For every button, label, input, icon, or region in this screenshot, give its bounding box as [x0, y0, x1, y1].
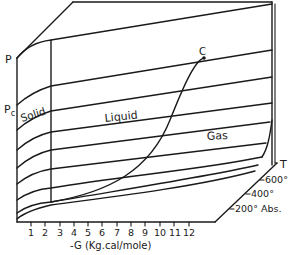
svg-text:600°: 600°: [265, 174, 288, 185]
p-axis-label: P: [5, 53, 12, 66]
right-edge-curve: [262, 120, 272, 157]
svg-text:200° Abs.: 200° Abs.: [235, 203, 281, 214]
svg-text:1: 1: [28, 227, 34, 238]
svg-text:3: 3: [57, 227, 63, 238]
svg-text:7: 7: [114, 227, 120, 238]
svg-text:6: 6: [99, 227, 105, 238]
svg-text:4: 4: [71, 227, 77, 238]
surface-frame: [17, 2, 277, 222]
critical-point-label: C: [199, 46, 206, 57]
svg-text:11: 11: [169, 227, 181, 238]
liquid-label: Liquid: [104, 109, 138, 125]
svg-text:10: 10: [154, 227, 166, 238]
svg-text:2: 2: [42, 227, 48, 238]
isobar-curves: [17, 4, 272, 219]
t-axis-label: T: [279, 158, 287, 171]
svg-text:8: 8: [128, 227, 134, 238]
svg-text:9: 9: [142, 227, 148, 238]
x-axis-label: -G (Kg.cal/mole): [70, 240, 151, 251]
svg-text:5: 5: [85, 227, 91, 238]
solid-label: Solid: [19, 105, 47, 124]
phase-diagram: P Pc C Solid Liquid Gas T 600° 400° 200°…: [0, 0, 298, 255]
svg-text:12: 12: [183, 227, 195, 238]
x-axis-ticks: 1 2 3 4 5 6 7 8 9 10 11 12: [28, 222, 195, 238]
pc-label: Pc: [4, 103, 15, 118]
gas-label: Gas: [206, 129, 228, 143]
svg-text:400°: 400°: [251, 188, 274, 199]
